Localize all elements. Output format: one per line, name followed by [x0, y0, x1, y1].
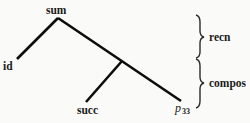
- brace-recn: [196, 15, 204, 58]
- node-label-id: id: [3, 60, 13, 72]
- edge-junction-succ: [86, 61, 122, 102]
- p33-subscript: 33: [182, 107, 190, 116]
- brace-compos: [196, 59, 204, 108]
- edge-sum-id: [17, 18, 58, 59]
- brace-label-compos: compos: [209, 77, 247, 90]
- brace-label-recn: recn: [209, 31, 231, 43]
- tree-diagram: sum id succ p33 recn compos: [0, 0, 250, 123]
- node-label-succ: succ: [77, 104, 98, 116]
- node-label-p33: p33: [174, 101, 190, 116]
- node-label-sum: sum: [46, 4, 67, 16]
- edge-sum-p33: [58, 18, 181, 101]
- p33-base: p: [174, 101, 181, 115]
